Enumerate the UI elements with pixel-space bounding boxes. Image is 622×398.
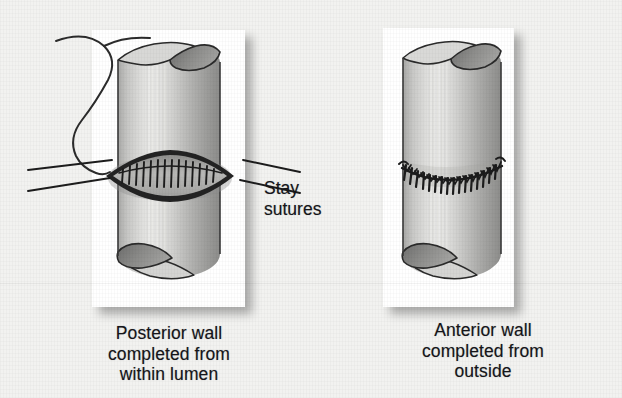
caption-posterior-wall: Posterior wall completed from within lum… xyxy=(44,323,294,385)
anterior-wall-illustration xyxy=(383,28,514,307)
panel-posterior-wall xyxy=(92,30,245,307)
panel-anterior-wall xyxy=(383,28,514,307)
posterior-wall-illustration xyxy=(92,30,245,307)
stay-sutures-label: Stay sutures xyxy=(264,178,321,219)
caption-anterior-wall: Anterior wall completed from outside xyxy=(358,320,608,382)
surgical-anastomosis-figure: Stay sutures Posterior wall completed fr… xyxy=(0,0,622,398)
